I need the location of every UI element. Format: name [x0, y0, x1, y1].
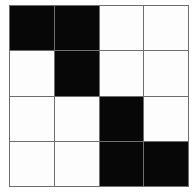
grid-cell-r1-c2 [100, 51, 144, 95]
grid-cell-r1-c0 [10, 51, 54, 95]
grid-cell-r3-c0 [10, 142, 54, 186]
grid-cell-r2-c1 [55, 97, 99, 141]
grid-cell-r2-c3 [144, 97, 188, 141]
grid-cell-r2-c2 [100, 97, 144, 141]
grid-cell-r0-c3 [144, 6, 188, 50]
grid-cell-r0-c0 [10, 6, 54, 50]
grid-cell-r1-c1 [55, 51, 99, 95]
grid-cell-r3-c3 [144, 142, 188, 186]
grid-cell-r3-c2 [100, 142, 144, 186]
binary-grid [9, 5, 189, 187]
grid-cell-r0-c1 [55, 6, 99, 50]
image-canvas [0, 0, 196, 192]
grid-cell-r1-c3 [144, 51, 188, 95]
grid-cell-r3-c1 [55, 142, 99, 186]
grid-cell-r0-c2 [100, 6, 144, 50]
grid-cell-r2-c0 [10, 97, 54, 141]
